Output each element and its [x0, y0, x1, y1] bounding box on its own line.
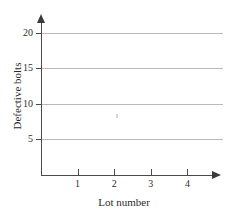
- y-axis-tick: [36, 104, 41, 105]
- plot-area: [41, 22, 223, 175]
- y-axis-line: [41, 22, 42, 175]
- x-axis-tick: [78, 169, 79, 175]
- gridline-y: [41, 139, 223, 140]
- gridline-y: [41, 104, 223, 105]
- y-axis-arrow-icon: [37, 14, 45, 23]
- y-axis-title: Defective bolts: [11, 31, 23, 161]
- x-axis-tick: [151, 169, 152, 175]
- y-axis-tick: [36, 33, 41, 34]
- y-axis-tick: [36, 68, 41, 69]
- x-axis-tick: [114, 169, 115, 175]
- gridline-y: [41, 68, 223, 69]
- gridline-y: [41, 33, 223, 34]
- chart-figure: 5101520 1234 Lot number Defective bolts: [0, 0, 236, 215]
- x-axis-arrow-icon: [212, 171, 221, 179]
- x-axis-title: Lot number: [0, 196, 236, 208]
- x-axis-tick-label: 2: [104, 178, 124, 190]
- y-axis-tick: [36, 139, 41, 140]
- x-axis-tick-label: 1: [68, 178, 88, 190]
- cut-off-title-remnant: [142, 0, 196, 3]
- x-axis-tick-label: 3: [141, 178, 161, 190]
- x-axis-tick: [187, 169, 188, 175]
- x-axis-tick-label: 4: [177, 178, 197, 190]
- scan-artifact-speck: [116, 114, 118, 118]
- x-axis-line: [41, 175, 213, 176]
